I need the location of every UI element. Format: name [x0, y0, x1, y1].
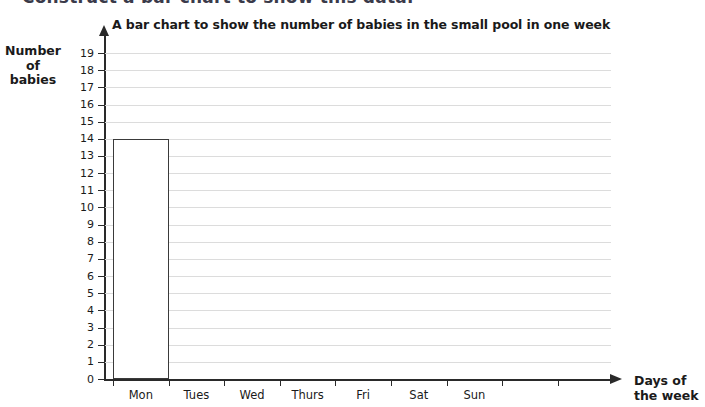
- y-axis-label: 17: [72, 82, 94, 93]
- y-axis-label: 14: [72, 133, 94, 144]
- y-axis-tick: [98, 276, 105, 277]
- y-axis-tick: [98, 379, 105, 380]
- y-axis-tick: [98, 173, 105, 174]
- gridline: [105, 225, 611, 226]
- y-axis-tick: [98, 328, 105, 329]
- y-axis-label: 13: [72, 150, 94, 161]
- x-axis-tick: [113, 380, 114, 386]
- y-axis-label: 12: [72, 168, 94, 179]
- x-axis-tick: [502, 380, 503, 386]
- y-axis-label: 2: [72, 339, 94, 350]
- x-axis-tick: [558, 380, 559, 386]
- y-axis-tick: [98, 345, 105, 346]
- gridline: [105, 156, 611, 157]
- x-axis-tick: [280, 380, 281, 386]
- gridline: [105, 362, 611, 363]
- y-axis-tick: [98, 259, 105, 260]
- x-axis-label-wed: Wed: [224, 388, 280, 402]
- y-axis-label: 11: [72, 185, 94, 196]
- y-axis-tick: [98, 207, 105, 208]
- y-axis-tick: [98, 87, 105, 88]
- gridline: [105, 207, 611, 208]
- y-axis-arrow-icon: [99, 25, 109, 36]
- gridline: [105, 53, 611, 54]
- plot-area: 012345678910111213141516171819MonTuesWed…: [0, 0, 705, 407]
- x-axis-tick: [335, 380, 336, 386]
- y-axis-label: 9: [72, 219, 94, 230]
- y-axis-tick: [98, 242, 105, 243]
- x-axis-label-fri: Fri: [335, 388, 391, 402]
- y-axis-label: 15: [72, 116, 94, 127]
- x-axis-tick: [391, 380, 392, 386]
- gridline: [105, 259, 611, 260]
- x-axis-tick: [447, 380, 448, 386]
- y-axis-tick: [98, 225, 105, 226]
- x-axis-arrow-icon: [610, 374, 622, 384]
- x-axis-tick: [224, 380, 225, 386]
- y-axis-label: 1: [72, 356, 94, 367]
- gridline: [105, 190, 611, 191]
- gridline: [105, 345, 611, 346]
- gridline: [105, 310, 611, 311]
- y-axis-tick: [98, 293, 105, 294]
- y-axis-tick: [98, 310, 105, 311]
- y-axis-label: 3: [72, 322, 94, 333]
- gridline: [105, 242, 611, 243]
- y-axis-tick: [98, 139, 105, 140]
- y-axis-tick: [98, 362, 105, 363]
- gridline: [105, 105, 611, 106]
- gridline: [105, 122, 611, 123]
- y-axis-label: 7: [72, 253, 94, 264]
- y-axis-label: 6: [72, 271, 94, 282]
- y-axis-tick: [98, 70, 105, 71]
- y-axis-tick: [98, 105, 105, 106]
- y-axis-label: 8: [72, 236, 94, 247]
- gridline: [105, 293, 611, 294]
- x-axis-line: [104, 379, 612, 381]
- y-axis-label: 16: [72, 99, 94, 110]
- gridline: [105, 70, 611, 71]
- y-axis-label: 4: [72, 305, 94, 316]
- x-axis-label-tues: Tues: [169, 388, 225, 402]
- y-axis-label: 10: [72, 202, 94, 213]
- y-axis-tick: [98, 156, 105, 157]
- bar-mon: [113, 139, 169, 379]
- y-axis-tick: [98, 122, 105, 123]
- gridline: [105, 87, 611, 88]
- gridline: [105, 328, 611, 329]
- x-axis-tick: [169, 380, 170, 386]
- gridline: [105, 139, 611, 140]
- x-axis-label-sat: Sat: [391, 388, 447, 402]
- y-axis-label: 0: [72, 374, 94, 385]
- x-axis-label-thurs: Thurs: [280, 388, 336, 402]
- x-axis-label-mon: Mon: [113, 388, 169, 402]
- y-axis-tick: [98, 53, 105, 54]
- x-axis-label-sun: Sun: [447, 388, 503, 402]
- worksheet-chart-page: Construct a bar chart to show this data.…: [0, 0, 705, 407]
- gridline: [105, 173, 611, 174]
- y-axis-label: 19: [72, 48, 94, 59]
- y-axis-label: 18: [72, 65, 94, 76]
- gridline: [105, 276, 611, 277]
- y-axis-label: 5: [72, 288, 94, 299]
- y-axis-tick: [98, 190, 105, 191]
